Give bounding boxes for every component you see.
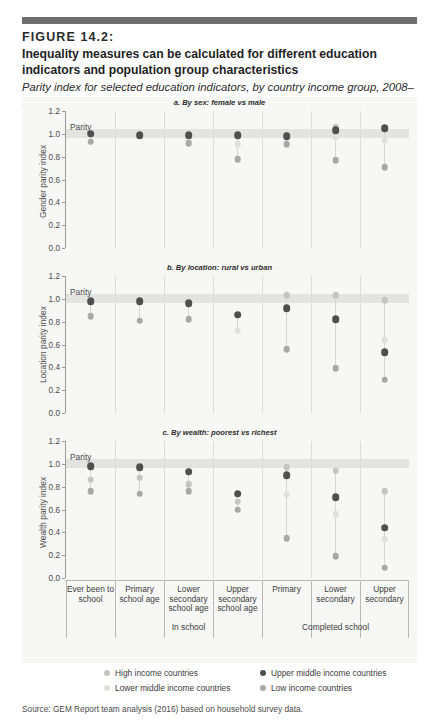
x-axis-category-label: Lower secondary school age — [164, 585, 213, 614]
category-separator — [115, 276, 116, 413]
panel-c: c. By wealth: poorest vs richestWealth p… — [22, 427, 417, 578]
data-point — [381, 564, 388, 571]
x-axis-category-label: Lower secondary — [311, 585, 360, 604]
data-point — [381, 488, 388, 495]
y-axis-line — [65, 276, 66, 413]
legend-marker-icon — [260, 685, 266, 691]
data-point — [283, 141, 290, 148]
data-point — [381, 536, 388, 543]
y-axis-tick-label: 0.0 — [38, 244, 60, 253]
data-point — [234, 490, 242, 498]
source-note: Source: GEM Report team analysis (2016) … — [22, 704, 422, 714]
y-axis-line — [65, 441, 66, 578]
y-axis-tick-mark — [62, 248, 65, 249]
x-axis-separator — [66, 580, 67, 638]
header-rule — [22, 17, 417, 24]
category-separator — [213, 276, 214, 413]
data-point — [381, 124, 389, 132]
range-connector — [335, 295, 336, 368]
data-point — [332, 127, 340, 135]
parity-label: Parity — [70, 452, 91, 462]
legend-item: Upper middle income countries — [260, 668, 386, 678]
data-point — [283, 346, 290, 353]
y-axis-tick-mark — [62, 555, 65, 556]
y-axis-tick-mark — [62, 367, 65, 368]
data-point — [185, 131, 193, 139]
y-axis-tick-mark — [62, 157, 65, 158]
plot-canvas: Parity — [66, 441, 409, 578]
panel-title: b. By location: rural vs urban — [22, 263, 417, 272]
category-separator — [311, 441, 312, 578]
panel-a: a. By sex: female vs maleGender parity i… — [22, 97, 417, 248]
y-axis-tick-label: 0.2 — [38, 386, 60, 395]
legend-item: High income countries — [104, 668, 198, 678]
x-axis-group-label: Completed school — [262, 622, 409, 632]
y-axis-tick-mark — [62, 225, 65, 226]
data-point — [234, 131, 242, 139]
y-axis-tick-mark — [62, 202, 65, 203]
category-separator — [115, 111, 116, 248]
y-axis-tick-label: 1.0 — [38, 294, 60, 303]
y-axis-tick-label: 1.0 — [38, 129, 60, 138]
category-separator — [311, 111, 312, 248]
legend-label: Low income countries — [271, 683, 352, 693]
data-point — [283, 304, 291, 312]
data-point — [234, 328, 241, 335]
data-point — [87, 297, 95, 305]
y-axis-tick-label: 0.6 — [38, 505, 60, 514]
data-point — [185, 316, 192, 323]
data-point — [283, 491, 290, 498]
data-point — [87, 488, 94, 495]
figure-label: FIGURE 14.2: — [22, 30, 114, 44]
y-axis-tick-label: 1.2 — [38, 437, 60, 446]
data-point — [185, 300, 193, 308]
x-axis-rule — [65, 580, 409, 581]
y-axis-tick-label: 0.4 — [38, 363, 60, 372]
y-axis-tick-label: 1.2 — [38, 107, 60, 116]
plot-canvas: Parity — [66, 276, 409, 413]
data-point — [332, 316, 340, 324]
y-axis-tick-label: 1.2 — [38, 272, 60, 281]
category-separator — [262, 111, 263, 248]
y-axis-tick-mark — [62, 111, 65, 112]
data-point — [381, 337, 388, 344]
data-point — [381, 164, 388, 171]
y-axis-tick-label: 0.2 — [38, 551, 60, 560]
plot-area: a. By sex: female vs maleGender parity i… — [22, 97, 417, 663]
plot-canvas: Parity — [66, 111, 409, 248]
y-axis-tick-label: 0.6 — [38, 340, 60, 349]
data-point — [136, 490, 143, 497]
category-separator — [213, 111, 214, 248]
data-point — [136, 131, 144, 139]
data-point — [381, 524, 389, 532]
y-axis-tick-mark — [62, 276, 65, 277]
legend: High income countriesUpper middle income… — [22, 668, 417, 700]
category-separator — [164, 441, 165, 578]
data-point — [87, 313, 94, 320]
category-separator — [360, 111, 361, 248]
y-axis-tick-mark — [62, 322, 65, 323]
category-separator — [164, 276, 165, 413]
data-point — [87, 462, 95, 470]
y-axis-tick-label: 1.0 — [38, 459, 60, 468]
y-axis-tick-mark — [62, 487, 65, 488]
x-axis-category-label: Ever been to school — [66, 585, 115, 604]
y-axis-tick-label: 0.2 — [38, 221, 60, 230]
y-axis-tick-mark — [62, 413, 65, 414]
data-point — [234, 506, 241, 513]
x-axis-group-label: In school — [115, 622, 262, 632]
data-point — [283, 132, 291, 140]
y-axis-tick-label: 0.8 — [38, 152, 60, 161]
category-separator — [213, 441, 214, 578]
figure-root: FIGURE 14.2: Inequality measures can be … — [0, 0, 439, 723]
data-point — [136, 297, 144, 305]
category-separator — [262, 441, 263, 578]
y-axis-tick-label: 0.0 — [38, 409, 60, 418]
y-axis-tick-mark — [62, 345, 65, 346]
data-point — [381, 349, 389, 357]
figure-title: Inequality measures can be calculated fo… — [22, 47, 422, 78]
y-axis-tick-label: 0.4 — [38, 198, 60, 207]
data-point — [185, 481, 192, 488]
parity-band — [66, 459, 409, 468]
x-axis-category-label: Primary — [262, 585, 311, 595]
